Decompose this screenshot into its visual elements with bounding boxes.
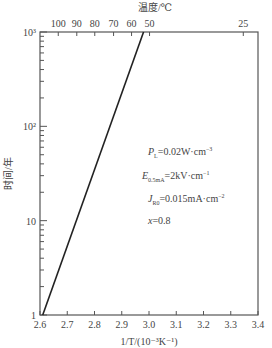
x-tick-label: 3.0: [143, 319, 156, 330]
y-tick-label: 10: [26, 216, 36, 227]
annotation-x-value: x=0.8: [148, 215, 171, 226]
top-tick-label: 80: [90, 18, 100, 29]
top-tick-label: 90: [72, 18, 82, 29]
annotation-field-strength: E0.5mA=2kV·cm−1: [142, 170, 209, 183]
annotation-power-loss: PL=0.02W·cm−3: [148, 146, 212, 159]
x-tick-label: 2.7: [61, 319, 74, 330]
x-tick-label: 3.3: [225, 319, 238, 330]
lifetime-line: [43, 32, 144, 315]
x-tick-label: 2.9: [116, 319, 129, 330]
y-tick-label: 1: [31, 310, 36, 321]
x-tick-label: 3.1: [170, 319, 183, 330]
arrhenius-lifetime-chart: 2.62.72.82.93.03.13.23.33.41009080706050…: [0, 0, 272, 348]
top-axis-title: 温度/℃: [138, 1, 172, 13]
x-tick-label: 3.4: [252, 319, 265, 330]
x-tick-label: 2.8: [88, 319, 101, 330]
top-tick-label: 70: [109, 18, 119, 29]
x-tick-label: 3.2: [197, 319, 210, 330]
top-tick-label: 60: [127, 18, 137, 29]
top-tick-label: 50: [145, 18, 155, 29]
y-tick-label: 10²: [23, 121, 36, 132]
y-axis-title: 时间/年: [2, 157, 14, 190]
top-tick-label: 100: [51, 18, 66, 29]
y-tick-label: 10³: [23, 27, 36, 38]
top-tick-label: 25: [238, 18, 248, 29]
annotation-current-density: JR0=0.015mA·cm−2: [148, 193, 225, 206]
x-axis-title: 1/T/(10⁻³K⁻¹): [120, 336, 177, 348]
